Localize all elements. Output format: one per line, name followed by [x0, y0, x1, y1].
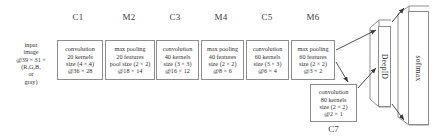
cnn-architecture-figure: C1 M2 C3 M4 C5 M6 input image @39 × 31 ×… — [0, 0, 435, 139]
arrow-m6-to-deepid — [336, 30, 376, 50]
arrow-c7-to-deepid — [358, 68, 376, 88]
connector-arrows — [0, 0, 435, 139]
arrow-deepid-to-softmax-top — [392, 8, 404, 22]
arrow-deepid-to-softmax-bottom — [392, 104, 404, 120]
arrow-m6-to-c7 — [336, 62, 348, 82]
